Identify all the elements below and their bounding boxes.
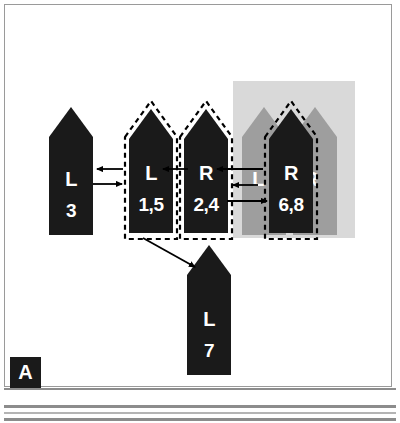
figure-panel: L 3 L 1,5 R 2,4 L	[4, 4, 392, 387]
shape-l3-letter: L	[49, 169, 93, 189]
figure-root: L 3 L 1,5 R 2,4 L	[0, 0, 400, 423]
divider-rule-1	[4, 388, 396, 390]
shape-l3-number: 3	[49, 201, 93, 220]
shape-r68-letter: R	[269, 163, 313, 183]
divider-rule-3	[4, 412, 396, 414]
shape-r24-number: 2,4	[180, 195, 232, 214]
shape-l3[interactable]: L 3	[49, 105, 93, 237]
shape-r68-number: 6,8	[265, 195, 317, 214]
shape-r24[interactable]: R 2,4	[180, 101, 232, 243]
shape-l7-letter: L	[187, 309, 231, 329]
divider-rule-2	[4, 405, 396, 408]
shape-l15-letter: L	[129, 163, 173, 183]
panel-label-a: A	[10, 357, 41, 388]
shape-r24-letter: R	[184, 163, 228, 183]
shape-l7-number: 7	[187, 341, 231, 360]
shape-l15-number: 1,5	[125, 195, 177, 214]
shape-l7[interactable]: L 7	[187, 243, 231, 377]
divider-rule-4	[4, 418, 396, 421]
shape-r68[interactable]: R 6,8	[265, 101, 317, 243]
shape-l15[interactable]: L 1,5	[125, 101, 177, 243]
